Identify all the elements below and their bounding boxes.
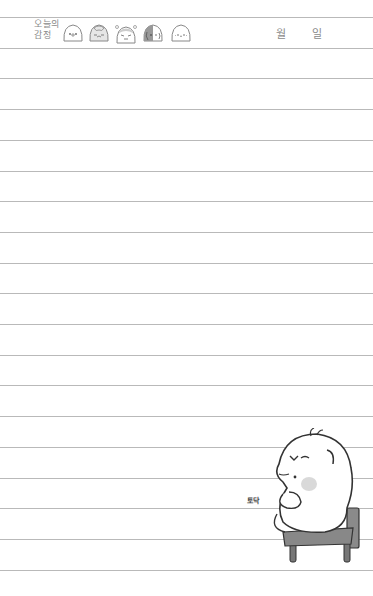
gloomy-face-icon[interactable]	[142, 23, 164, 43]
ruled-line	[0, 140, 373, 141]
ruled-line	[0, 232, 373, 233]
ruled-line	[0, 324, 373, 325]
sitting-character-icon	[255, 428, 373, 568]
ruled-line	[0, 416, 373, 417]
ruled-line	[0, 570, 373, 571]
calm-face-icon[interactable]	[170, 23, 192, 43]
happy-face-icon[interactable]	[62, 23, 84, 43]
ruled-line	[0, 78, 373, 79]
ruled-line	[0, 293, 373, 294]
day-label: 일	[312, 25, 322, 41]
emotion-label-line2: 감정	[34, 30, 60, 41]
angry-face-icon[interactable]	[114, 23, 138, 45]
ruled-line	[0, 263, 373, 264]
month-label: 월	[276, 25, 286, 41]
ruled-line	[0, 355, 373, 356]
pat-sound-text: 토닥	[247, 495, 259, 505]
ruled-line	[0, 109, 373, 110]
ruled-line	[0, 201, 373, 202]
todays-emotion-label: 오늘의 감정	[34, 19, 60, 41]
ruled-line	[0, 385, 373, 386]
ruled-line	[0, 171, 373, 172]
sad-face-icon[interactable]	[88, 23, 110, 43]
ruled-line	[0, 17, 373, 18]
ruled-line	[0, 48, 373, 49]
emotion-label-line1: 오늘의	[34, 19, 60, 30]
